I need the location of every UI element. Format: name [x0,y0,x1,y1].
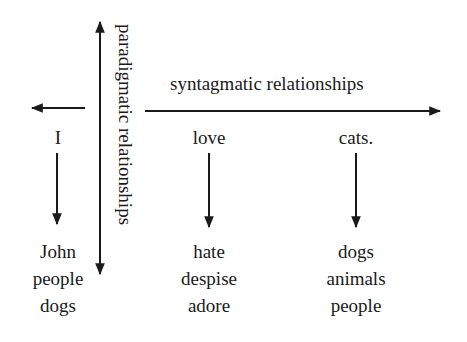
alternative-word: people [326,292,385,319]
column-3-head: cats. [339,128,373,147]
alternative-word: John [33,238,84,265]
column-1-alternatives: John people dogs [33,238,84,319]
column-2-head: love [193,128,226,147]
alternative-word: animals [326,265,385,292]
alternative-word: despise [181,265,237,292]
alternative-word: dogs [33,292,84,319]
column-3-alternatives: dogs animals people [326,238,385,319]
column-1-head: I [55,128,61,147]
column-2-alternatives: hate despise adore [181,238,237,319]
alternative-word: adore [181,292,237,319]
paradigmatic-label: paradigmatic relationships [114,24,136,225]
alternative-word: people [33,265,84,292]
syntagmatic-label: syntagmatic relationships [170,74,364,93]
alternative-word: dogs [326,238,385,265]
alternative-word: hate [181,238,237,265]
